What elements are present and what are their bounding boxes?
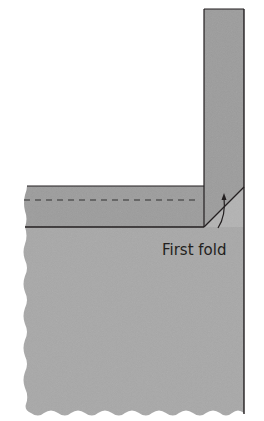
horizontal-binding-strip (24, 186, 204, 227)
first-fold-label: First fold (162, 241, 226, 259)
first-fold-diagram: First fold (0, 0, 264, 421)
